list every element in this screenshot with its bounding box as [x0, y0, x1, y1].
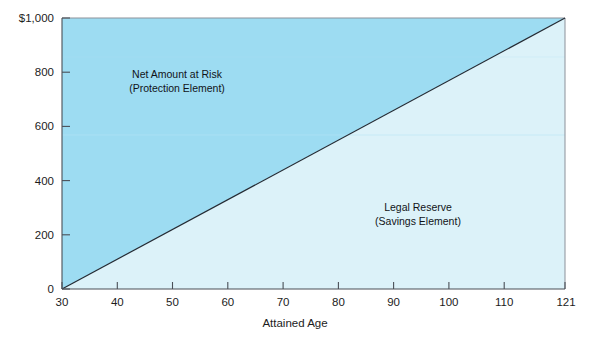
y-tick-label-0: 0: [48, 283, 54, 295]
y-tick-label-800: 800: [35, 66, 54, 78]
x-tick-label-110: 110: [495, 296, 513, 308]
annotation-legal-reserve-line1: Legal Reserve: [384, 201, 452, 213]
x-tick-label-90: 90: [387, 296, 400, 308]
annotation-legal-reserve-line2: (Savings Element): [375, 215, 461, 227]
x-tick-label-60: 60: [221, 296, 234, 308]
x-tick-label-121: 121: [556, 296, 575, 308]
annotation-net-amount-at-risk-line1: Net Amount at Risk: [132, 68, 223, 80]
chart-container: 0 200 400 600 800 $1,000 30 40 50 60 7: [0, 0, 592, 338]
insurance-reserve-chart: 0 200 400 600 800 $1,000 30 40 50 60 7: [0, 0, 592, 338]
x-tick-label-40: 40: [111, 296, 124, 308]
y-tick-label-200: 200: [35, 229, 54, 241]
x-tick-label-30: 30: [56, 296, 69, 308]
annotation-net-amount-at-risk-line2: (Protection Element): [129, 82, 225, 94]
x-axis-title: Attained Age: [262, 317, 327, 329]
y-tick-label-600: 600: [35, 120, 54, 132]
y-tick-label-400: 400: [35, 175, 54, 187]
y-tick-label-1000: $1,000: [19, 12, 54, 24]
x-tick-label-70: 70: [277, 296, 290, 308]
x-tick-label-50: 50: [166, 296, 179, 308]
x-tick-label-80: 80: [332, 296, 345, 308]
x-tick-label-100: 100: [439, 296, 458, 308]
